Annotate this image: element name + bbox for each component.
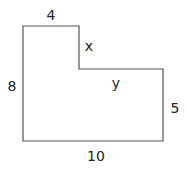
- label-left: 8: [8, 78, 17, 94]
- label-right: 5: [171, 100, 180, 116]
- label-bottom: 10: [87, 148, 105, 164]
- label-x: x: [85, 38, 93, 54]
- label-top: 4: [47, 7, 56, 23]
- label-y: y: [112, 75, 120, 91]
- l-shape-diagram: 4 x y 8 5 10: [0, 0, 187, 171]
